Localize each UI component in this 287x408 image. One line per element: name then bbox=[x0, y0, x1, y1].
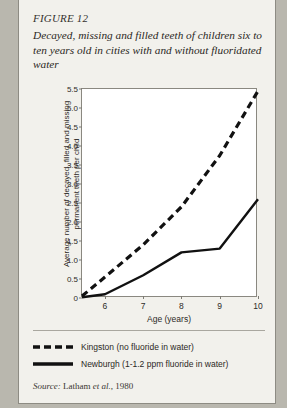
plot-frame: 00.51.01.52.02.53.03.54.04.55.05.5678910 bbox=[81, 88, 257, 297]
x-axis-label: Age (years) bbox=[81, 314, 257, 324]
y-tick-mark bbox=[79, 108, 82, 109]
figure-card: FIGURE 12 Decayed, missing and filled te… bbox=[18, 0, 276, 404]
legend-item-kingston: Kingston (no fluoride in water) bbox=[33, 342, 269, 352]
y-tick-mark bbox=[79, 279, 82, 280]
x-tick-mark bbox=[258, 296, 259, 299]
y-tick-mark bbox=[79, 298, 82, 299]
x-tick-label: 7 bbox=[141, 301, 146, 311]
source-year: , 1980 bbox=[111, 381, 134, 391]
y-tick-label: 3.0 bbox=[67, 180, 78, 189]
series-lines bbox=[82, 89, 258, 298]
y-tick-mark bbox=[79, 222, 82, 223]
chart-plot-area: Average number of decayed, filled and mi… bbox=[19, 78, 277, 323]
source-author: Latham bbox=[63, 381, 91, 391]
x-tick-mark bbox=[181, 296, 182, 299]
x-tick-mark bbox=[143, 296, 144, 299]
y-tick-label: 1.0 bbox=[67, 256, 78, 265]
y-tick-mark bbox=[79, 146, 82, 147]
y-tick-mark bbox=[79, 203, 82, 204]
y-tick-label: 0 bbox=[74, 294, 78, 303]
source-etal: et al. bbox=[93, 381, 111, 391]
legend-swatch-solid bbox=[33, 359, 73, 369]
x-tick-label: 8 bbox=[179, 301, 184, 311]
series-line bbox=[82, 91, 258, 296]
y-tick-label: 2.5 bbox=[67, 199, 78, 208]
y-tick-mark bbox=[79, 127, 82, 128]
figure-number: FIGURE 12 bbox=[33, 12, 265, 24]
figure-title: Decayed, missing and filled teeth of chi… bbox=[33, 28, 265, 72]
y-tick-mark bbox=[79, 165, 82, 166]
series-line bbox=[82, 199, 258, 297]
chart-legend: Kingston (no fluoride in water) Newburgh… bbox=[33, 342, 269, 376]
figure-caption: FIGURE 12 Decayed, missing and filled te… bbox=[33, 12, 265, 72]
y-tick-label: 3.5 bbox=[67, 161, 78, 170]
y-tick-label: 5.5 bbox=[67, 85, 78, 94]
y-tick-label: 2.0 bbox=[67, 218, 78, 227]
legend-divider bbox=[33, 330, 265, 331]
x-tick-label: 10 bbox=[253, 301, 262, 311]
y-tick-mark bbox=[79, 89, 82, 90]
y-tick-label: 0.5 bbox=[67, 275, 78, 284]
y-tick-label: 4.5 bbox=[67, 123, 78, 132]
y-tick-label: 4.0 bbox=[67, 142, 78, 151]
legend-item-newburgh: Newburgh (1-1.2 ppm fluoride in water) bbox=[33, 359, 269, 369]
y-tick-mark bbox=[79, 241, 82, 242]
source-label: Source: bbox=[33, 381, 61, 391]
legend-label-newburgh: Newburgh (1-1.2 ppm fluoride in water) bbox=[81, 359, 228, 369]
legend-swatch-dashed bbox=[33, 342, 73, 352]
y-tick-mark bbox=[79, 184, 82, 185]
x-tick-label: 6 bbox=[103, 301, 108, 311]
y-tick-label: 1.5 bbox=[67, 237, 78, 246]
x-tick-mark bbox=[105, 296, 106, 299]
y-tick-mark bbox=[79, 260, 82, 261]
figure-source: Source: Latham et al., 1980 bbox=[33, 381, 133, 391]
y-tick-label: 5.0 bbox=[67, 104, 78, 113]
x-tick-label: 9 bbox=[217, 301, 222, 311]
x-tick-mark bbox=[220, 296, 221, 299]
legend-label-kingston: Kingston (no fluoride in water) bbox=[81, 342, 194, 352]
